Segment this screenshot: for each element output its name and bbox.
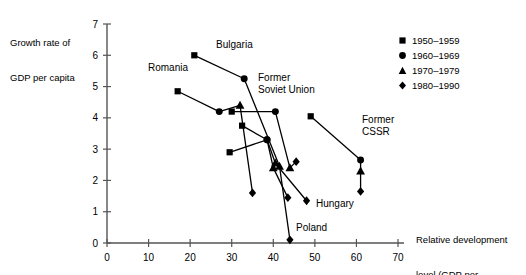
- data-point-square: [175, 88, 181, 94]
- axis-ticks: 01234567010203040506070: [92, 19, 404, 263]
- data-point-triangle: [356, 166, 365, 174]
- legend-item-triangle[interactable]: 1970–1979: [398, 63, 460, 78]
- x-axis-label: Relative development level (GDP per capi…: [416, 211, 526, 275]
- data-point-triangle: [236, 101, 245, 109]
- data-point-square: [308, 113, 314, 119]
- legend-item-diamond[interactable]: 1980–1990: [398, 78, 460, 93]
- legend: 1950–19591960–19691970–19791980–1990: [398, 33, 460, 93]
- circle-marker: [264, 136, 271, 143]
- series-label-former-soviet-union: Soviet Union: [258, 84, 315, 95]
- y-axis-label: Growth rate of GDP per capita: [10, 14, 120, 106]
- series-label-former-soviet-union: Former: [258, 72, 291, 83]
- legend-label: 1970–1979: [412, 65, 460, 76]
- data-point-circle: [216, 108, 223, 115]
- square-icon: [398, 36, 412, 45]
- data-point-circle: [272, 108, 279, 115]
- x-tick-label: 20: [185, 252, 197, 263]
- x-tick-label: 30: [226, 252, 238, 263]
- series-romania: [175, 88, 257, 197]
- data-point-square: [229, 109, 235, 115]
- series-label-former-cssr: CSSR: [362, 126, 390, 137]
- data-point-diamond: [357, 187, 364, 196]
- y-tick-label: 2: [92, 175, 98, 186]
- series-label-hungary: Hungary: [316, 198, 354, 209]
- triangle-marker: [236, 101, 245, 109]
- circle-marker: [357, 157, 364, 164]
- y-tick-label: 1: [92, 206, 98, 217]
- x-axis-label-line-1: Relative development: [416, 234, 526, 246]
- legend-item-square[interactable]: 1950–1959: [398, 33, 460, 48]
- series-label-bulgaria: Bulgaria: [216, 39, 253, 50]
- diamond-marker: [284, 193, 291, 202]
- y-tick-label: 4: [92, 112, 98, 123]
- series-former-cssr: [308, 113, 365, 196]
- circle-icon: [398, 51, 412, 60]
- x-tick-label: 60: [351, 252, 363, 263]
- square-marker: [191, 52, 197, 58]
- circle-marker: [241, 75, 248, 82]
- x-tick-label: 0: [104, 252, 110, 263]
- data-point-circle: [241, 75, 248, 82]
- square-marker: [175, 88, 181, 94]
- data-point-square: [191, 52, 197, 58]
- y-tick-label: 3: [92, 144, 98, 155]
- x-tick-label: 40: [268, 252, 280, 263]
- diamond-marker: [357, 187, 364, 196]
- data-point-square: [239, 123, 245, 129]
- data-point-diamond: [249, 189, 256, 198]
- circle-marker: [272, 108, 279, 115]
- series-label-former-cssr: Former: [362, 114, 395, 125]
- data-point-square: [227, 149, 233, 155]
- x-tick-label: 10: [143, 252, 155, 263]
- x-tick-label: 70: [392, 252, 404, 263]
- y-axis-label-line-2: GDP per capita: [10, 72, 120, 84]
- triangle-icon: [398, 66, 412, 75]
- legend-label: 1950–1959: [412, 35, 460, 46]
- y-tick-label: 0: [92, 238, 98, 249]
- series-annotations: RomaniaBulgariaFormerSoviet UnionFormerC…: [148, 39, 395, 233]
- square-marker: [239, 123, 245, 129]
- square-marker: [308, 113, 314, 119]
- data-point-circle: [264, 136, 271, 143]
- square-marker: [229, 109, 235, 115]
- data-point-circle: [357, 157, 364, 164]
- y-axis-label-line-1: Growth rate of: [10, 37, 120, 49]
- data-point-diamond: [284, 193, 291, 202]
- legend-item-circle[interactable]: 1960–1969: [398, 48, 460, 63]
- triangle-marker: [356, 166, 365, 174]
- legend-label: 1980–1990: [412, 80, 460, 91]
- diamond-marker: [249, 189, 256, 198]
- x-tick-label: 50: [309, 252, 321, 263]
- square-marker: [227, 149, 233, 155]
- series-label-romania: Romania: [148, 62, 188, 73]
- diamond-icon: [398, 81, 412, 90]
- circle-marker: [216, 108, 223, 115]
- x-axis-label-line-2: level (GDP per: [416, 269, 526, 275]
- series-label-poland: Poland: [296, 222, 327, 233]
- legend-label: 1960–1969: [412, 50, 460, 61]
- chart-figure: Growth rate of GDP per capita Relative d…: [0, 0, 526, 275]
- series-line: [311, 116, 361, 191]
